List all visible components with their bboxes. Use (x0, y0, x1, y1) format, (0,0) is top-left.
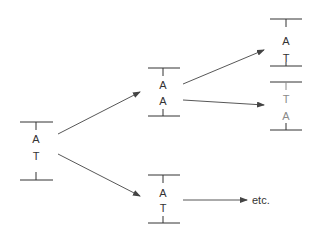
node-parent: A T (20, 122, 53, 180)
node-mutant-daughter-2: T A (270, 82, 302, 130)
base-top: A (282, 35, 290, 47)
base-bottom: A (282, 110, 290, 122)
base-top: A (159, 187, 167, 199)
base-bottom: T (160, 202, 167, 214)
replication-diagram: A T A A A T A T T A (0, 0, 317, 241)
base-top: A (159, 79, 167, 91)
node-mutant-daughter-1: A T (270, 19, 302, 66)
node-normal-daughter: A T (148, 175, 180, 223)
arrow-mutant-to-daughter-2 (183, 100, 264, 105)
arrow-mutant-to-daughter-1 (183, 50, 264, 84)
base-top: T (283, 93, 290, 105)
arrow-parent-to-mutant (58, 92, 140, 134)
node-mutant: A A (148, 68, 180, 116)
base-bottom: A (159, 95, 167, 107)
etc-label: etc. (252, 194, 270, 206)
arrow-parent-to-normal-daughter (58, 154, 140, 196)
base-bottom: T (33, 150, 40, 162)
base-top: A (32, 133, 40, 145)
